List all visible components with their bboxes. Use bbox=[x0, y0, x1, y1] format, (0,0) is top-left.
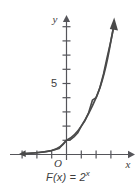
y-tick-label-5: 5 bbox=[51, 77, 57, 89]
y-axis-label: y bbox=[52, 13, 58, 25]
caption-exponent-text: x bbox=[86, 169, 90, 178]
exponential-curve-smooth bbox=[25, 28, 113, 154]
caption-base-text: F(x) = 2 bbox=[46, 171, 86, 183]
function-caption: F(x) = 2x bbox=[0, 169, 136, 183]
exponential-function-figure: y x O 5 F(x) = 2x bbox=[0, 0, 136, 193]
exponential-curve bbox=[25, 28, 114, 154]
curve-right-arrow-icon bbox=[110, 18, 118, 31]
origin-label: O bbox=[54, 157, 62, 169]
y-axis-arrow-icon bbox=[63, 15, 70, 22]
graph-plot: y x O 5 bbox=[0, 0, 136, 193]
